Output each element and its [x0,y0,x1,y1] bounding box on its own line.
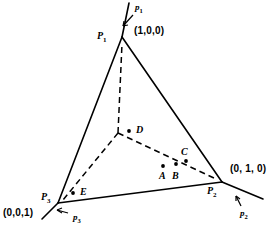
median-dashed-lines [63,44,216,200]
point-dot-A [161,164,165,168]
axis-label-p2-subscript: 2 [245,213,248,220]
point-label-A: A [159,171,166,181]
edge-p1-p2 [122,37,222,182]
axis-label-p3: p3 [73,213,81,224]
axis-label-p1-subscript: 1 [140,7,143,14]
point-dot-E [71,191,75,195]
vertex-label-p2: P2 [207,186,217,199]
vertex-label-p1-subscript: 1 [103,36,107,44]
triangle-edges [58,37,222,203]
vertex-label-p3: P3 [41,192,51,205]
vertex-label-p1: P1 [97,31,107,44]
point-label-C: C [181,147,188,157]
axis-label-p1: p1 [135,3,143,14]
axis-label-p3-subscript: 3 [78,217,81,224]
coordinate-label-p2: (0, 1, 0) [230,164,266,174]
median-to-p2 [118,133,216,179]
axis-label-p2: p2 [240,209,248,220]
point-dot-C [184,159,188,163]
axis-ray-p2 [222,182,263,199]
coordinate-label-p1: (1,0,0) [134,26,164,36]
edge-p1-p3 [58,37,122,203]
median-to-p1 [118,44,122,133]
arrow-p1 [123,15,133,26]
simplex-triangle-figure: P1 P2 P3 (1,0,0) (0, 1, 0) (0,0,1) p1 p2… [0,0,280,234]
point-dot-B [174,162,178,166]
vertex-label-p2-subscript: 2 [213,191,217,199]
point-label-B: B [172,171,179,181]
point-label-E: E [80,187,87,197]
vertex-label-p3-subscript: 3 [47,197,51,205]
point-label-D: D [136,125,143,135]
point-dot-D [127,129,131,133]
coordinate-label-p3: (0,0,1) [3,208,33,218]
axis-ray-p3 [42,203,58,219]
